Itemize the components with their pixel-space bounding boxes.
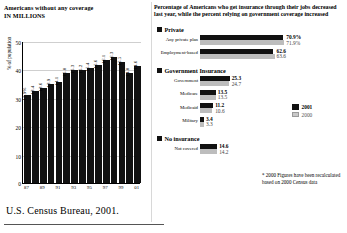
- left-chart-panel: Americans without any coverage IN MILLIO…: [0, 0, 152, 233]
- y-axis-tick-label: 0: [18, 181, 21, 187]
- bar-row-label: Any private plan: [166, 37, 198, 42]
- x-axis-tick-label: 99: [118, 185, 125, 190]
- bar-2001: [200, 35, 283, 40]
- bar-value-label: 15.6: [93, 59, 98, 68]
- legend-label-2000: 2000: [302, 112, 313, 118]
- bar-item: 15.0: [63, 41, 70, 183]
- bar-value-label: 15.5: [117, 57, 122, 66]
- bar-value-label: 14.6: [133, 61, 138, 70]
- bar-row-label: Government: [174, 78, 198, 83]
- bar: [134, 66, 141, 183]
- bar: [56, 82, 63, 183]
- bar-value-label: 14.1: [54, 77, 59, 86]
- y-axis-tick-label: 30: [16, 97, 21, 103]
- bar: [40, 88, 47, 183]
- bar-row-label: Not covered: [174, 146, 198, 151]
- bar-row-label: Employment-based: [161, 50, 198, 55]
- bar-item: 15.3: [71, 41, 78, 183]
- y-axis-tick-label: 40: [16, 68, 21, 74]
- bar-value-label-2000: 13.5: [218, 94, 227, 100]
- bar: [126, 73, 133, 183]
- bar: [87, 68, 94, 183]
- bar-2000: [200, 54, 275, 59]
- source-caption: U.S. Census Bureau, 2001.: [6, 205, 119, 216]
- bar-row-label: Medicare: [180, 91, 198, 96]
- x-axis-tick-label: [47, 185, 54, 190]
- bar: [63, 73, 70, 183]
- legend-item-2001: 2001: [292, 104, 312, 110]
- x-axis-tick-label: [125, 185, 132, 190]
- bar-row: Any private plan70.9%71.9%: [200, 35, 288, 46]
- y-axis-tick-label: 50: [16, 40, 21, 46]
- bar-row: Medicaid11.210.6: [200, 103, 288, 114]
- bar-item: 15.5: [119, 41, 126, 183]
- legend-swatch-icon-2001: [292, 104, 299, 110]
- bar-2000: [200, 108, 212, 113]
- x-axis-tick-label: [62, 185, 69, 190]
- bar-2001: [200, 49, 273, 54]
- x-axis-tick-label: [78, 185, 85, 190]
- right-chart-title: Percentage of Americans who get insuranc…: [154, 4, 345, 19]
- bar-2001: [200, 144, 217, 149]
- bar-item: 14.6: [134, 41, 141, 183]
- chart-page: Americans without any coverage IN MILLIO…: [0, 0, 347, 233]
- y-axis-tick-label: 10: [16, 154, 21, 160]
- bar-value-label: 16.1: [101, 54, 106, 63]
- bar: [32, 91, 39, 183]
- bar-value-label-2000: 14.2: [219, 149, 228, 155]
- bar-item: 14.1: [56, 41, 63, 183]
- bar-2000: [200, 95, 216, 100]
- bar-2001: [200, 117, 204, 122]
- left-chart-y-axis-label: % of population: [6, 37, 12, 70]
- bar-value-label-2000: 71.9%: [286, 40, 300, 46]
- bar-value-label: 13.9: [46, 79, 51, 88]
- bar-value-label-2000: 63.6: [277, 53, 286, 59]
- horizontal-rule: [4, 224, 164, 225]
- bar-value-label: 15.0: [62, 68, 67, 77]
- bar-row: Employment-based62.663.6: [200, 49, 288, 60]
- legend-label-2001: 2001: [302, 104, 313, 110]
- bar-value-label: 15.4: [85, 62, 90, 71]
- right-chart-panel: Percentage of Americans who get insuranc…: [152, 0, 347, 233]
- category-heading: No insurance: [157, 135, 199, 142]
- bar-item: 13.9: [48, 41, 55, 183]
- x-axis-tick-label: 95: [86, 185, 93, 190]
- bar-value-label: 14.0: [125, 68, 130, 77]
- bar-2001: [200, 76, 230, 81]
- bar-row: Medicare13.513.5: [200, 90, 288, 101]
- bar: [79, 70, 86, 183]
- bar-item: 13.4: [32, 41, 39, 183]
- bar: [119, 62, 126, 183]
- bar: [95, 65, 102, 183]
- category-heading: Private: [157, 26, 184, 33]
- x-axis-tick-label: 87: [23, 185, 30, 190]
- x-axis-tick-label: 93: [70, 185, 77, 190]
- bar-series: 12.9%13.413.613.914.115.015.315.215.415.…: [23, 41, 141, 183]
- bar-value-label-2000: 24.7: [232, 81, 241, 87]
- x-axis-tick-label: 91: [55, 185, 62, 190]
- bar-value-label: 16.3: [109, 52, 114, 61]
- left-chart-plot-area: 0102030405012.9%13.413.613.914.115.015.3…: [22, 42, 140, 184]
- bar-value-label: 15.3: [70, 65, 75, 74]
- bar-item: 13.6: [40, 41, 47, 183]
- bar-value-label: 15.2: [78, 65, 83, 74]
- category-swatch-icon: [157, 27, 162, 32]
- bar-row-label: Medicaid: [180, 105, 198, 110]
- left-chart-x-axis: 8789919395979901: [22, 185, 140, 190]
- bar-value-label-2000: 10.6: [215, 108, 224, 114]
- x-axis-tick-label: 89: [39, 185, 46, 190]
- bar-2001: [200, 90, 216, 95]
- bar-2000: [200, 149, 217, 154]
- x-axis-tick-label: 97: [102, 185, 109, 190]
- category-heading-label: No insurance: [165, 135, 200, 142]
- footnote-text: * 2000 Figures have been recalculated ba…: [262, 172, 347, 185]
- bar: [71, 70, 78, 183]
- bar-2001: [200, 103, 213, 108]
- bar-item: 12.9%: [24, 41, 31, 183]
- right-chart-title-line2: last year, while the percent relying on …: [154, 11, 328, 17]
- bar-value-label: 12.9%: [22, 88, 27, 101]
- category-swatch-icon: [157, 136, 162, 141]
- bar: [111, 57, 118, 183]
- legend-swatch-icon-2000: [292, 112, 299, 118]
- x-axis-tick-label: [31, 185, 38, 190]
